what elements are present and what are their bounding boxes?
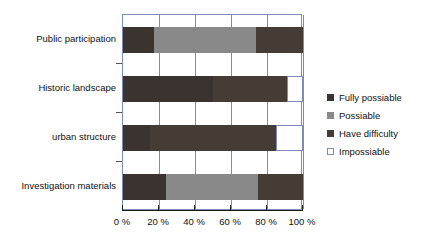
bar-series-group (123, 15, 301, 209)
legend-label: Fully possiable (339, 92, 402, 103)
category-axis-labels: Public participationHistoric landscapeur… (0, 14, 120, 210)
value-axis-tick (194, 205, 195, 211)
category-label: Historic landscape (0, 82, 116, 93)
chart-legend: Fully possiablePossiableHave difficultyI… (327, 88, 431, 160)
legend-item[interactable]: Possiable (327, 106, 431, 124)
legend-item[interactable]: Fully possiable (327, 88, 431, 106)
value-axis-tick-label: 20 % (147, 216, 169, 227)
bar-segment (123, 174, 166, 200)
value-axis-tick (266, 205, 267, 211)
bar-row (123, 125, 301, 151)
bar-segment (150, 125, 276, 151)
legend-swatch-possiable (327, 112, 334, 119)
value-axis-tick-label: 40 % (183, 216, 205, 227)
bar-segment (256, 27, 303, 53)
bar-row (123, 174, 301, 200)
category-label: urban structure (0, 131, 116, 142)
bar-row (123, 76, 301, 102)
bar-segment (123, 76, 213, 102)
value-axis-line (122, 210, 303, 211)
bar-segment (166, 174, 258, 200)
value-axis-tick (122, 205, 123, 211)
legend-label: Possiable (339, 110, 380, 121)
bar-segment (213, 76, 287, 102)
value-axis-tick-label: 80 % (255, 216, 277, 227)
legend-swatch-fully-possiable (327, 94, 334, 101)
bar-segment (123, 125, 150, 151)
bar-segment (287, 76, 303, 102)
stacked-bar-chart: Public participationHistoric landscapeur… (0, 0, 431, 249)
legend-label: Have difficulty (339, 128, 398, 139)
legend-swatch-impossiable (327, 148, 334, 155)
value-axis-tick (302, 205, 303, 211)
bar-segment (154, 27, 257, 53)
legend-swatch-have-difficulty (327, 130, 334, 137)
legend-item[interactable]: Impossiable (327, 142, 431, 160)
legend-label: Impossiable (339, 146, 390, 157)
value-axis-tick-label: 60 % (219, 216, 241, 227)
value-axis-tick (230, 205, 231, 211)
bar-segment (123, 27, 154, 53)
gridline-100pct (303, 15, 304, 209)
value-axis-tick (158, 205, 159, 211)
value-axis-tick-label: 100 % (289, 216, 316, 227)
bar-segment (258, 174, 303, 200)
category-label: Public participation (0, 33, 116, 44)
bar-segment (276, 125, 303, 151)
legend-item[interactable]: Have difficulty (327, 124, 431, 142)
bar-row (123, 27, 301, 53)
category-label: Investigation materials (0, 180, 116, 191)
value-axis-tick-label: 0 % (114, 216, 130, 227)
plot-area (122, 14, 302, 210)
